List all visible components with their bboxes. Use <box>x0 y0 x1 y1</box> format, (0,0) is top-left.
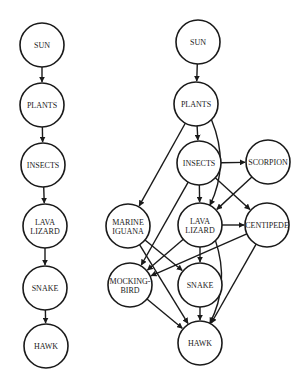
chain-node-lava-lizard: LAVALIZARD <box>23 204 67 248</box>
node-label: HAWK <box>188 339 212 348</box>
web-edge-mockingbird-to-hawk <box>147 299 182 328</box>
node-label: LIZARD <box>185 226 215 235</box>
node-label: SUN <box>34 41 50 50</box>
node-label: IGUANA <box>112 227 144 236</box>
food-web-diagram: SUNPLANTSINSECTSLAVALIZARDSNAKEHAWK SUNP… <box>0 0 307 385</box>
web-node-lava-lizard: LAVALIZARD <box>178 203 222 247</box>
node-label: BIRD <box>120 286 139 295</box>
web-node-marine-iguana: MARINEIGUANA <box>106 204 150 248</box>
web-node-insects: INSECTS <box>177 141 221 185</box>
node-label: SNAKE <box>32 284 59 293</box>
web-edge-plants-to-insects <box>197 126 198 140</box>
chain-edge-insects-to-lava-lizard <box>44 187 45 203</box>
chain-node-hawk: HAWK <box>24 324 68 368</box>
chain-node-snake: SNAKE <box>23 266 67 310</box>
chain-node-plants: PLANTS <box>20 83 64 127</box>
web-node-sun: SUN <box>176 20 220 64</box>
node-label: INSECTS <box>183 159 215 168</box>
web-node-scorpion: SCORPION <box>246 140 290 184</box>
web-edge-sun-to-plants <box>197 64 198 81</box>
node-label: SUN <box>190 38 206 47</box>
web-node-mockingbird: MOCKING-BIRD <box>108 263 152 307</box>
node-label: HAWK <box>34 342 58 351</box>
node-label: PLANTS <box>27 101 57 110</box>
food-web: SUNPLANTSINSECTSSCORPIONMARINEIGUANALAVA… <box>106 20 290 365</box>
web-node-snake: SNAKE <box>178 263 222 307</box>
node-label: MOCKING- <box>110 277 151 286</box>
node-label: LAVA <box>190 217 210 226</box>
node-label: LAVA <box>35 218 55 227</box>
node-label: LIZARD <box>30 227 60 236</box>
node-label: INSECTS <box>27 161 59 170</box>
node-label: MARINE <box>112 218 144 227</box>
node-label: CENTIPEDE <box>245 221 289 230</box>
web-node-plants: PLANTS <box>174 82 218 126</box>
node-label: PLANTS <box>181 100 211 109</box>
chain-node-sun: SUN <box>20 23 64 67</box>
web-node-hawk: HAWK <box>178 321 222 365</box>
web-edge-scorpion-to-lava-lizard <box>217 177 252 209</box>
node-label: SCORPION <box>248 158 288 167</box>
web-node-centipede: CENTIPEDE <box>245 203 289 247</box>
chain-node-insects: INSECTS <box>21 143 65 187</box>
node-label: SNAKE <box>187 281 214 290</box>
